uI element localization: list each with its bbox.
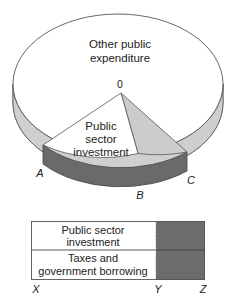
bar-diagram: Public sector investment Taxes and gover… bbox=[31, 221, 207, 295]
axis-label-z: Z bbox=[199, 283, 208, 295]
bar-row2-line1: Taxes and bbox=[68, 252, 118, 264]
bar-row1-line2: investment bbox=[66, 236, 119, 248]
bar-dark-section bbox=[156, 221, 205, 280]
axis-label-y: Y bbox=[154, 283, 162, 295]
bar-row2-line2: government borrowing bbox=[38, 265, 147, 277]
axis-label-x: X bbox=[31, 283, 40, 295]
label-investment-line1: Public bbox=[85, 120, 117, 132]
point-label-c: C bbox=[187, 174, 195, 186]
diagram-canvas: Other public expenditure 0 Public sector… bbox=[0, 0, 236, 305]
label-other-line1: Other public bbox=[89, 38, 151, 50]
point-label-a: A bbox=[35, 167, 43, 179]
label-investment-line3: investment bbox=[73, 146, 129, 158]
bar-row1-line1: Public sector bbox=[62, 224, 125, 236]
label-other-line2: expenditure bbox=[90, 52, 150, 64]
label-investment-line2: sector bbox=[85, 133, 116, 145]
point-label-b: B bbox=[136, 189, 143, 201]
label-center-zero: 0 bbox=[117, 78, 123, 90]
